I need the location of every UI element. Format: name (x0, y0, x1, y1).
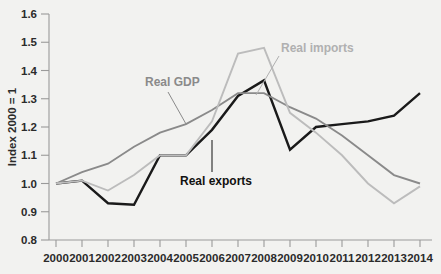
x-tick-label: 2005 (173, 252, 199, 264)
x-tick-label: 2000 (43, 252, 69, 264)
x-tick-label: 2001 (69, 252, 95, 264)
x-tick-label: 2008 (251, 252, 277, 264)
annotation-label-real-imports: Real imports (281, 41, 354, 55)
chart-container: 0.80.91.01.11.21.31.41.51.6 200020012002… (0, 0, 441, 274)
y-tick-label: 1.6 (21, 8, 37, 20)
x-tick-label: 2013 (381, 252, 407, 264)
x-tick-label: 2014 (407, 252, 433, 264)
chart-background (0, 0, 441, 274)
x-tick-label: 2003 (121, 252, 147, 264)
annotation-label-real-exports: Real exports (180, 174, 252, 188)
y-tick-label: 1.2 (21, 121, 37, 133)
annotation-label-real-gdp: Real GDP (145, 75, 200, 89)
y-tick-label: 0.9 (21, 206, 37, 218)
y-tick-label: 1.4 (21, 65, 38, 77)
x-tick-label: 2007 (225, 252, 251, 264)
y-axis-title: Index 2000 = 1 (6, 87, 18, 166)
x-tick-label: 2002 (95, 252, 121, 264)
y-tick-label: 0.8 (21, 234, 38, 246)
x-tick-label: 2010 (303, 252, 329, 264)
x-tick-label: 2009 (277, 252, 303, 264)
x-tick-label: 2011 (330, 252, 356, 264)
x-tick-label: 2012 (355, 252, 381, 264)
x-tick-label: 2004 (147, 252, 173, 264)
y-tick-label: 1.3 (21, 93, 37, 105)
y-tick-label: 1.5 (21, 36, 38, 48)
y-tick-label: 1.1 (21, 149, 38, 161)
x-tick-label: 2006 (199, 252, 225, 264)
line-chart: 0.80.91.01.11.21.31.41.51.6 200020012002… (0, 0, 441, 274)
y-tick-label: 1.0 (21, 178, 37, 190)
